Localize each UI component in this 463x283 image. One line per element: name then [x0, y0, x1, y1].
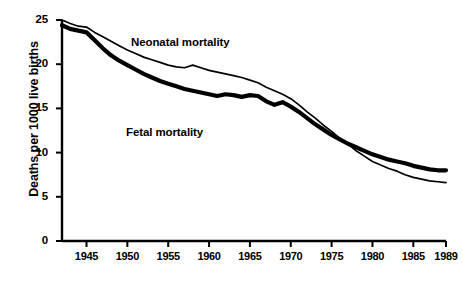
series-label-fetal: Fetal mortality	[126, 126, 203, 138]
x-tick-label: 1960	[188, 250, 230, 262]
y-tick-label: 25	[22, 13, 48, 25]
x-tick-label: 1970	[270, 250, 312, 262]
x-tick-label: 1950	[106, 250, 148, 262]
y-tick-label: 20	[22, 57, 48, 69]
y-tick-label: 10	[22, 146, 48, 158]
x-tick-label: 1989	[425, 250, 463, 262]
series-label-neonatal: Neonatal mortality	[131, 36, 230, 48]
x-tick-label: 1955	[147, 250, 189, 262]
x-tick-label: 1965	[229, 250, 271, 262]
x-tick-label: 1980	[351, 250, 393, 262]
x-tick-label: 1975	[311, 250, 353, 262]
y-tick-label: 5	[22, 190, 48, 202]
y-tick-label: 15	[22, 101, 48, 113]
y-tick-label: 0	[22, 234, 48, 246]
x-tick-label: 1945	[66, 250, 108, 262]
series-line-fetal	[62, 25, 446, 170]
